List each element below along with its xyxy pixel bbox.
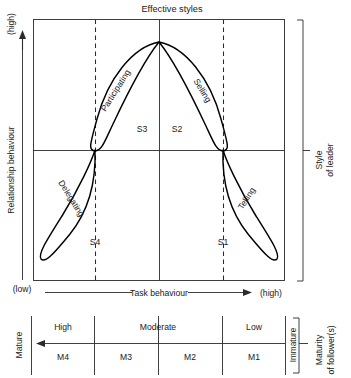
style-of-leader-label-line2: of leader [325, 143, 335, 177]
x-axis-label: Task behaviour [130, 288, 188, 298]
curve-label-participating: Participating [99, 68, 133, 114]
curve-label-telling: Telling [236, 185, 258, 211]
y-axis-label: Relationship behaviour [6, 126, 16, 214]
plot-frame [34, 20, 285, 281]
maturity-side-label-line1: Maturity [314, 334, 324, 365]
maturity-code-m4: M4 [57, 352, 69, 362]
diagram-title: Effective styles [141, 4, 203, 14]
maturity-level-low: Low [246, 322, 263, 332]
x-axis-high-label: (high) [260, 288, 282, 298]
maturity-code-m1: M1 [248, 352, 260, 362]
quadrant-label-s3: S3 [137, 124, 148, 134]
y-axis-arrowhead [19, 30, 26, 39]
quadrant-label-s4: S4 [90, 237, 101, 247]
curve-label-delegating: Delegating [56, 178, 86, 218]
maturity-level-moderate: Moderate [140, 322, 177, 332]
quadrant-label-s2: S2 [172, 124, 183, 134]
situational-leadership-diagram: Effective styles Participating Selling D… [0, 0, 351, 378]
y-axis-high-label: (high) [6, 13, 16, 35]
maturity-code-m2: M2 [184, 352, 196, 362]
curve-delegating: Delegating [40, 150, 95, 260]
quadrant-label-s1: S1 [218, 237, 229, 247]
maturity-code-m3: M3 [120, 352, 132, 362]
maturity-label-mature: Mature [14, 331, 24, 358]
y-axis-low-label: (low) [13, 284, 32, 294]
curve-selling: Selling [159, 42, 227, 151]
maturity-level-high: High [54, 322, 72, 332]
style-of-leader-label-line1: Style [314, 150, 324, 169]
x-axis-arrowhead [243, 289, 252, 296]
maturity-label-immature: Immature [289, 327, 298, 362]
maturity-arrowhead [36, 340, 45, 347]
curve-telling: Telling [223, 150, 278, 260]
curve-participating: Participating [91, 42, 159, 151]
maturity-side-label-line2: of follower(s) [326, 325, 336, 374]
style-of-leader-bracket [297, 20, 303, 281]
